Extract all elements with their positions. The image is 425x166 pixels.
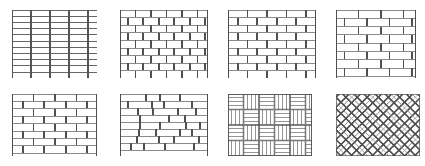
herringbone-bond-drawing: [336, 94, 420, 156]
pattern-swatch-running-bond-third-lap[interactable]: [336, 10, 416, 78]
pattern-swatch-running-bond-half-wide[interactable]: [228, 10, 316, 78]
pattern-swatch-basketweave-bond[interactable]: [228, 94, 312, 156]
basketweave-bond-drawing: [228, 94, 312, 156]
stack-bond-grid-drawing: [12, 10, 97, 78]
random-ashlar-bond-drawing: [120, 94, 208, 156]
pattern-swatch-running-bond-long-unit[interactable]: [12, 94, 97, 156]
running-bond-long-unit-drawing: [12, 94, 97, 156]
pattern-swatch-running-bond-half[interactable]: [120, 10, 208, 78]
pattern-swatch-random-ashlar-bond[interactable]: [120, 94, 208, 156]
running-bond-third-lap-drawing: [336, 10, 416, 78]
pattern-swatch-stack-bond-grid[interactable]: [12, 10, 97, 78]
running-bond-half-wide-drawing: [228, 10, 316, 78]
pattern-swatch-herringbone-bond[interactable]: [336, 94, 420, 156]
pattern-sheet: [0, 0, 425, 166]
running-bond-half-drawing: [120, 10, 208, 78]
